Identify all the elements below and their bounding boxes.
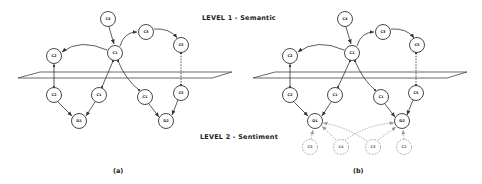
- panel-b: C4 C1 C2 C3 C5 C2 C1 C1 C5 D1 D2 C5 C4 C…: [253, 12, 467, 155]
- svg-text:C5: C5: [414, 43, 420, 47]
- node-c2: C2: [47, 49, 62, 64]
- edge-c2-d1: [294, 102, 308, 116]
- edge-c4-c1: [346, 27, 351, 44]
- edge-c3-c5: [391, 29, 414, 38]
- node-c1-lower-left: C1: [328, 88, 343, 103]
- svg-text:C1: C1: [332, 93, 338, 97]
- svg-text:D2: D2: [399, 119, 405, 123]
- node-c1: C1: [345, 46, 360, 61]
- svg-text:C4: C4: [105, 17, 111, 21]
- node-c4: C4: [338, 12, 353, 27]
- edge-c5-d2: [407, 100, 413, 115]
- edge-c4-c1: [109, 27, 114, 44]
- edge-c1-c3: [120, 32, 137, 46]
- edge-ghost-c4-d1: [322, 126, 336, 140]
- svg-text:C1: C1: [112, 51, 118, 55]
- caption-b: (b): [353, 167, 364, 175]
- svg-text:C4: C4: [342, 17, 348, 21]
- edge-ghost-c5-d1: [311, 130, 313, 139]
- node-c1-lower-right: C1: [374, 90, 389, 105]
- node-c5: C5: [174, 38, 189, 53]
- node-c2-lower: C2: [283, 88, 298, 103]
- svg-text:C1: C1: [96, 93, 102, 97]
- edge-c3-c5: [154, 29, 177, 38]
- edge-c1-c2: [298, 44, 344, 52]
- edge-c1-d2: [385, 104, 395, 117]
- svg-text:C5: C5: [413, 91, 419, 95]
- node-c1: C1: [108, 46, 123, 61]
- node-c1-lower-left: C1: [92, 88, 107, 103]
- node-c4: C4: [101, 12, 116, 27]
- svg-text:C4: C4: [338, 145, 344, 149]
- svg-text:C2: C2: [287, 93, 293, 97]
- edge-ghost-c2-d2: [403, 130, 404, 139]
- node-c3: C3: [139, 25, 154, 40]
- svg-text:C5: C5: [178, 43, 184, 47]
- level-separator-plane: [253, 72, 467, 78]
- node-c2: C2: [283, 49, 298, 64]
- svg-text:C1: C1: [142, 95, 148, 99]
- node-c2-lower: C2: [47, 88, 62, 103]
- node-d2: D2: [159, 114, 174, 129]
- svg-text:D1: D1: [312, 119, 318, 123]
- edge-c2-d1: [58, 102, 72, 116]
- node-c3: C3: [376, 25, 391, 40]
- node-c5-lower: C5: [409, 86, 424, 101]
- svg-text:D2: D2: [163, 119, 169, 123]
- svg-text:D1: D1: [76, 119, 82, 123]
- ghost-node-c5: C5: [303, 140, 318, 155]
- level-1-label: LEVEL 1 - Semantic: [202, 14, 276, 22]
- node-d1: D1: [308, 114, 323, 129]
- ghost-node-c4: C4: [334, 140, 349, 155]
- edge-ghost-c3-d2: [378, 127, 396, 140]
- edge-c1-d1: [322, 102, 331, 116]
- svg-text:C2: C2: [287, 54, 293, 58]
- svg-text:C3: C3: [380, 30, 386, 34]
- svg-text:C1: C1: [349, 51, 355, 55]
- node-c5-lower: C5: [174, 86, 189, 101]
- edge-ghost-c3-d1: [323, 123, 367, 141]
- svg-text:C5: C5: [178, 91, 184, 95]
- panel-a: C4 C1 C2 C3 C5 C2 C1 C1 C5 D1 D2: [18, 12, 232, 129]
- node-d2: D2: [395, 114, 410, 129]
- edge-c1-c3: [357, 32, 374, 46]
- edge-c5-d2: [172, 100, 178, 115]
- edge-ghost-c4-d2: [345, 123, 394, 140]
- diagram-canvas: C4 C1 C2 C3 C5 C2 C1 C1 C5 D1 D2: [0, 0, 482, 184]
- edge-c1-d2: [149, 104, 159, 117]
- node-c1-lower-right: C1: [138, 90, 153, 105]
- svg-text:C1: C1: [378, 95, 384, 99]
- caption-a: (a): [113, 167, 123, 175]
- level-2-label: LEVEL 2 - Sentiment: [200, 133, 278, 141]
- svg-text:C3: C3: [143, 30, 149, 34]
- node-c5: C5: [410, 38, 425, 53]
- svg-text:C3: C3: [370, 145, 376, 149]
- svg-text:C2: C2: [51, 54, 57, 58]
- svg-text:C2: C2: [401, 145, 407, 149]
- svg-text:C5: C5: [307, 145, 313, 149]
- node-d1: D1: [72, 114, 87, 129]
- svg-text:C2: C2: [51, 93, 57, 97]
- ghost-node-c2: C2: [397, 140, 412, 155]
- edge-c1-d1: [86, 102, 95, 116]
- ghost-node-c3: C3: [366, 140, 381, 155]
- edge-c1-c2: [62, 44, 107, 52]
